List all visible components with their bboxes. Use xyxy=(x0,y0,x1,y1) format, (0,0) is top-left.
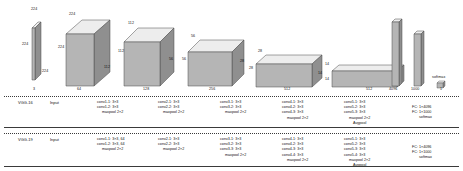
vgg16-network-label: VGG-16 xyxy=(18,100,33,105)
block-stage: 224 224 224 3 224 224 112 64 112 112 56 … xyxy=(0,0,463,96)
conv4-dim-right: 14 xyxy=(318,72,322,76)
vgg-architecture-diagram: 224 224 224 3 224 224 112 64 112 112 56 … xyxy=(0,0,463,171)
conv1-dim-top: 224 xyxy=(69,13,75,17)
softmax-channels: 1 xyxy=(440,88,442,92)
conv5-dim-left: 14 xyxy=(325,78,329,82)
row-divider-middle xyxy=(4,127,459,128)
vgg19-network-label: VGG-19 xyxy=(18,137,33,142)
vgg19-conv3-spec: conv3-1: 3×3 conv3-2: 3×3 conv3-3: 3×3 m… xyxy=(220,137,246,158)
conv2-block-shape xyxy=(122,22,178,88)
vgg16-input-label: Input xyxy=(50,100,59,105)
conv2-dim-top: 112 xyxy=(128,22,134,26)
vgg16-conv4-spec: conv4-1: 3×3 conv4-2: 3×3 conv4-3: 3×3 m… xyxy=(282,100,308,121)
conv1-channels: 64 xyxy=(77,88,81,92)
vgg16-conv5-spec: conv5-1: 3×3 conv5-2: 3×3 conv5-3: 3×3 m… xyxy=(344,100,370,126)
softmax-bar-shape xyxy=(436,80,450,90)
fc1-bar-shape xyxy=(391,18,405,88)
vgg16-conv2-spec: conv2-1: 3×3 conv2-2: 3×3 maxpool 2×2 xyxy=(158,100,184,116)
conv3-block-shape xyxy=(186,36,248,88)
conv1-dim-left: 224 xyxy=(58,46,64,50)
conv2-channels: 128 xyxy=(143,88,149,92)
conv5-channels: 512 xyxy=(366,88,372,92)
vgg16-conv3-spec: conv3-1: 3×3 conv3-2: 3×3 maxpool 2×2 xyxy=(220,100,246,116)
conv2-dim-left: 112 xyxy=(118,50,124,54)
conv4-block-shape xyxy=(254,52,326,90)
fc2-bar-shape xyxy=(413,30,427,88)
vgg19-row: VGG-19 Input conv1-1: 3×3, 64 conv1-2: 3… xyxy=(0,133,463,167)
vgg19-fc-spec: FC: 1×4096 FC: 1×1000 softmax xyxy=(412,145,432,161)
vgg16-conv1-spec: conv1-1: 3×3 conv1-2: 3×3 maxpool 2×2 xyxy=(97,100,123,116)
vgg19-conv5-spec: conv5-1: 3×3 conv5-2: 3×3 conv5-3: 3×3 c… xyxy=(344,137,370,168)
vgg19-conv2-spec: conv2-1: 3×3 conv2-2: 3×3 maxpool 2×2 xyxy=(158,137,184,153)
conv3-channels: 256 xyxy=(209,88,215,92)
layer-spec-rows: VGG-16 Input conv1-1: 3×3 conv1-2: 3×3 m… xyxy=(0,96,463,171)
fc1-channels: 4096 xyxy=(389,88,397,92)
vgg16-row: VGG-16 Input conv1-1: 3×3 conv1-2: 3×3 m… xyxy=(0,96,463,130)
input-dim-right: 224 xyxy=(42,70,48,74)
conv3-dim-left: 56 xyxy=(182,58,186,62)
row-divider-top xyxy=(4,96,459,97)
row-divider-bottom xyxy=(4,166,459,167)
conv2-dim-right: 56 xyxy=(169,58,173,62)
conv5-dim-top: 14 xyxy=(325,63,329,67)
input-channels: 3 xyxy=(33,88,35,92)
fc2-channels: 1000 xyxy=(411,88,419,92)
vgg19-conv4-spec: conv4-1: 3×3 conv4-2: 3×3 conv4-3: 3×3 c… xyxy=(282,137,308,163)
conv1-dim-right: 112 xyxy=(104,66,110,70)
conv4-channels: 512 xyxy=(284,88,290,92)
input-dim-top: 224 xyxy=(31,8,37,12)
row-divider-second xyxy=(4,133,459,134)
vgg19-input-label: Input xyxy=(50,137,59,142)
softmax-bar-label: softmax xyxy=(432,76,445,80)
input-dim-left: 224 xyxy=(22,43,28,47)
vgg16-fc-spec: FC: 1×4096 FC: 1×1000 softmax xyxy=(412,105,432,121)
conv4-dim-left: 28 xyxy=(249,67,253,71)
conv3-dim-right: 28 xyxy=(240,60,244,64)
conv1-block-shape xyxy=(62,14,114,88)
vgg19-conv1-spec: conv1-1: 3×3, 64 conv1-2: 3×3, 64 maxpoo… xyxy=(97,137,125,153)
conv3-dim-top: 56 xyxy=(191,35,195,39)
conv4-dim-top: 28 xyxy=(258,50,262,54)
